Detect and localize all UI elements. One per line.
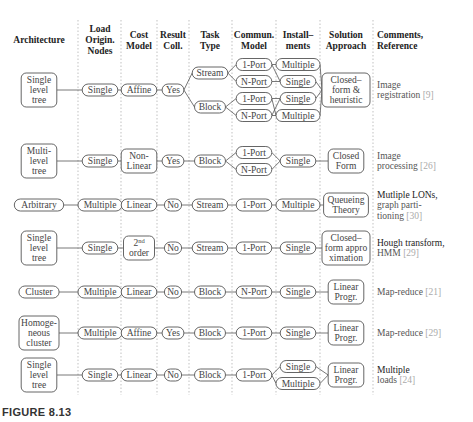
node-label: level	[30, 156, 49, 166]
node-label: Closed	[333, 151, 360, 161]
node-label: Single	[286, 243, 310, 253]
node-coll: Yes	[162, 84, 184, 96]
column-header: Reference	[377, 41, 417, 51]
edge	[272, 99, 276, 116]
column-header: Install–	[283, 30, 314, 40]
node-label: Yes	[166, 156, 180, 166]
node-label: 1-Port	[242, 328, 266, 338]
node-arch: Arbitrary	[14, 199, 63, 211]
node-arch: Homoge-neouscluster	[19, 316, 59, 350]
comment-text: registration [9]	[377, 90, 434, 100]
node-label: No	[167, 370, 179, 380]
comment-text: tioning [30]	[377, 211, 422, 221]
node-coll: No	[164, 199, 181, 211]
node-i2: Single	[280, 76, 316, 88]
node-label: 1-Port	[242, 60, 266, 70]
node-label: Multiple	[84, 287, 117, 297]
node-load: Single	[82, 369, 118, 381]
node-label: 1-Port	[242, 148, 266, 158]
node-sol: LinearProgr.	[328, 321, 364, 345]
taxonomy-diagram: ArchitectureLoadOrigin.NodesCostModelRes…	[0, 0, 473, 405]
node-label: Linear	[334, 323, 360, 333]
node-label: Single	[88, 156, 112, 166]
column-headers: ArchitectureLoadOrigin.NodesCostModelRes…	[13, 24, 423, 56]
edge	[226, 99, 237, 108]
node-cost: 2ndorder	[124, 236, 155, 260]
reference: [30]	[404, 211, 422, 221]
column-header: Architecture	[13, 35, 64, 45]
reference: [29]	[423, 328, 441, 338]
column-header: Result	[160, 30, 187, 40]
node-c4: N-Port	[236, 110, 272, 122]
comment-text: Multiple	[377, 365, 410, 375]
node-label: level	[30, 370, 49, 380]
node-label: 1-Port	[242, 243, 266, 253]
node-c2: N-Port	[236, 76, 272, 88]
figure-label: FIGURE 8.13	[2, 406, 71, 418]
reference: [29]	[401, 248, 419, 258]
node-t1: Stream	[192, 67, 228, 79]
reference: [9]	[420, 90, 433, 100]
node-label: Single	[286, 94, 310, 104]
node-coll: No	[164, 286, 181, 298]
edge	[316, 367, 328, 376]
node-comm: 1-Port	[236, 327, 272, 339]
node-load: Single	[82, 242, 118, 254]
node-label: ximation	[329, 253, 363, 263]
node-arch: Multi-leveltree	[21, 144, 57, 178]
node-load: Multiple	[78, 286, 122, 298]
node-task: Stream	[192, 242, 228, 254]
edge	[226, 161, 237, 170]
node-label: Stream	[197, 68, 225, 78]
node-sol: Closed–form &heuristic	[322, 73, 370, 107]
node-label: Single	[286, 156, 310, 166]
node-label: Multiple	[282, 111, 315, 121]
node-label: cluster	[26, 338, 52, 348]
node-c1: 1-Port	[236, 147, 272, 159]
node-task: Block	[195, 327, 226, 339]
node-label: Single	[286, 362, 310, 372]
node-sol: Closed–form approximation	[322, 231, 370, 265]
node-label: Theory	[332, 205, 360, 215]
node-label: N-Port	[241, 111, 267, 121]
node-label: Linear	[127, 287, 153, 297]
node-label: Stream	[197, 200, 225, 210]
column-header: Type	[200, 41, 220, 51]
node-label: 1-Port	[242, 370, 266, 380]
node-label: Progr.	[335, 333, 358, 343]
reference: [24]	[397, 375, 415, 385]
node-label: Non-	[129, 151, 149, 161]
node-label: order	[129, 248, 150, 258]
node-label: neous	[28, 328, 50, 338]
node-label: Block	[199, 102, 222, 112]
node-t2: Block	[195, 101, 226, 113]
node-inst: Single	[280, 155, 316, 167]
node-label: Stream	[197, 243, 225, 253]
node-label: Multiple	[84, 328, 117, 338]
column-header: Commun.	[234, 30, 274, 40]
node-arch: Singleleveltree	[21, 73, 57, 107]
node-cost: Non-Linear	[121, 149, 157, 173]
comment-text: Image	[377, 80, 401, 90]
node-label: Affine	[127, 328, 152, 338]
node-i1: Single	[280, 361, 316, 373]
node-i1: Multiple	[276, 59, 320, 71]
node-label: Progr.	[335, 375, 358, 385]
node-coll: No	[164, 242, 181, 254]
node-sol: ClosedForm	[328, 149, 364, 173]
node-inst: Single	[280, 242, 316, 254]
node-task: Block	[195, 369, 226, 381]
node-label: Yes	[166, 328, 180, 338]
node-label: Linear	[334, 282, 360, 292]
node-label: Block	[199, 370, 222, 380]
node-label: Linear	[127, 161, 153, 171]
node-task: Stream	[192, 199, 228, 211]
node-i2: Multiple	[276, 378, 320, 390]
reference: [21]	[423, 287, 441, 297]
node-label: tree	[32, 95, 46, 105]
comment-text: processing [26]	[377, 161, 436, 171]
node-inst: Single	[280, 286, 316, 298]
column-header: ments	[286, 41, 311, 51]
node-label: Homoge-	[21, 318, 57, 328]
comments: Imageregistration [9]Imageprocessing [26…	[377, 80, 445, 386]
